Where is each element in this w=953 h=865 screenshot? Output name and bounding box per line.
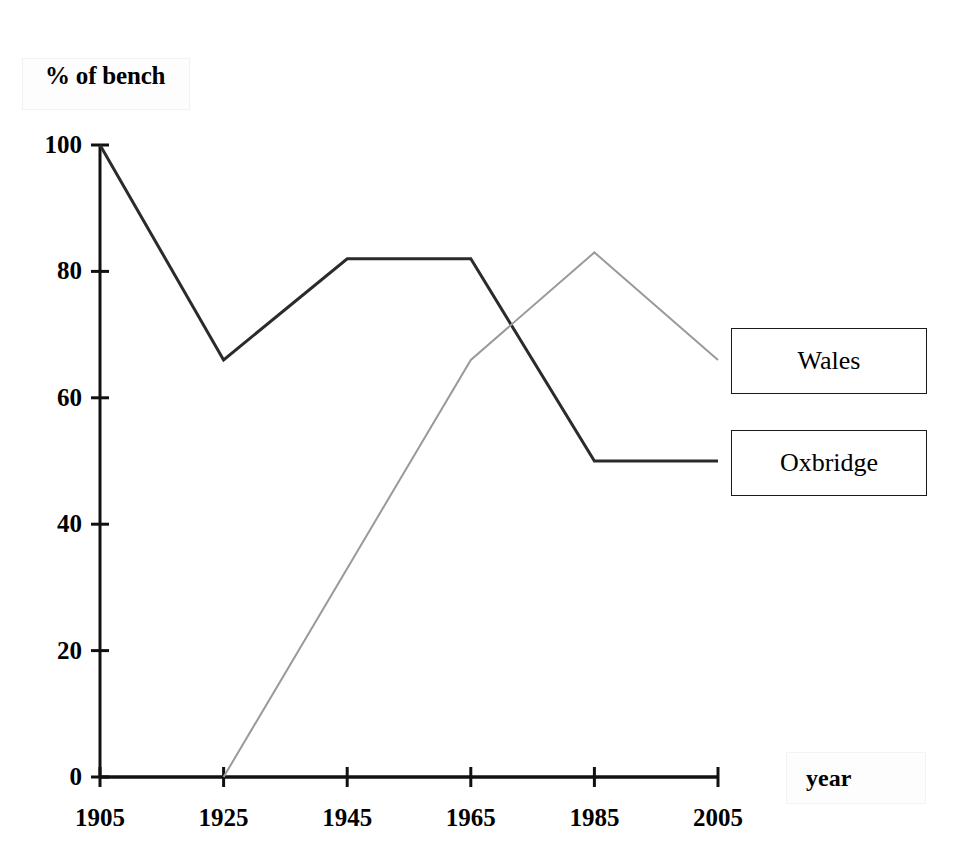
- legend-label: Oxbridge: [780, 448, 878, 478]
- x-tick-label: 1965: [411, 805, 531, 830]
- x-tick-label: 2005: [658, 805, 778, 830]
- axis-ticks: [91, 145, 718, 787]
- x-tick-label: 1985: [534, 805, 654, 830]
- series-lines: [100, 145, 718, 777]
- x-tick-label: 1905: [40, 805, 160, 830]
- y-tick-label: 60: [12, 385, 82, 410]
- x-tick-label: 1925: [164, 805, 284, 830]
- legend-item-oxbridge[interactable]: Oxbridge: [731, 430, 927, 496]
- legend-item-wales[interactable]: Wales: [731, 328, 927, 394]
- y-tick-label: 80: [12, 258, 82, 283]
- x-tick-label: 1945: [287, 805, 407, 830]
- y-tick-label: 20: [12, 638, 82, 663]
- legend-label: Wales: [798, 346, 861, 376]
- y-tick-label: 0: [12, 764, 82, 789]
- line-chart: % of bench year 100 80 60 40 20 0 1905 1…: [0, 0, 953, 865]
- y-tick-label: 100: [12, 132, 82, 157]
- y-tick-label: 40: [12, 511, 82, 536]
